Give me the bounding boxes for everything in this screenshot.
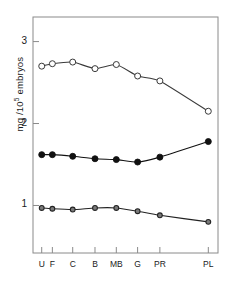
data-point-marker — [92, 156, 98, 162]
x-axis-tick-label-b: B — [92, 259, 98, 269]
data-point-marker — [157, 154, 163, 160]
series-line — [42, 208, 209, 222]
data-point-marker — [135, 209, 140, 214]
x-axis-tick-label-c: C — [70, 259, 76, 269]
y-axis-tick-label: 2 — [13, 117, 27, 128]
data-point-marker — [205, 139, 211, 145]
series-line — [42, 62, 209, 111]
series-small-circle-series — [39, 206, 210, 225]
data-point-marker — [39, 63, 45, 69]
y-axis-tick-label: 1 — [13, 198, 27, 209]
data-point-marker — [39, 152, 45, 158]
data-point-marker — [39, 206, 44, 211]
chart-plot-area — [0, 0, 233, 284]
data-point-marker — [114, 206, 119, 211]
plot-frame — [33, 17, 218, 253]
data-point-marker — [49, 152, 55, 158]
data-point-marker — [70, 207, 75, 212]
data-point-marker — [113, 157, 119, 163]
data-point-marker — [206, 219, 211, 224]
data-point-marker — [70, 59, 76, 65]
series-line — [42, 142, 209, 162]
figure-container: mg /105 embryos 123 UFCBMBGPRPL — [0, 0, 233, 284]
x-axis-tick-label-f: F — [50, 259, 55, 269]
y-axis-label-exponent: 5 — [13, 97, 20, 101]
data-point-marker — [157, 78, 163, 84]
data-point-marker — [135, 159, 141, 165]
series-open-circle-series — [39, 59, 212, 114]
x-axis-tick-label-mb: MB — [110, 259, 123, 269]
data-point-marker — [157, 213, 162, 218]
data-point-marker — [70, 153, 76, 159]
x-axis-tick-label-u: U — [39, 259, 45, 269]
x-axis-tick-label-g: G — [134, 259, 141, 269]
data-point-marker — [92, 66, 98, 72]
data-point-marker — [135, 73, 141, 79]
x-axis-tick-label-pl: PL — [203, 259, 213, 269]
x-axis-tick-label-pr: PR — [154, 259, 166, 269]
y-axis-tick-label: 3 — [13, 35, 27, 46]
data-point-marker — [93, 206, 98, 211]
y-axis-label: mg /105 embryos — [13, 29, 25, 159]
data-point-marker — [49, 61, 55, 67]
data-point-marker — [113, 62, 119, 68]
y-axis-label-tail: embryos — [14, 57, 25, 98]
data-point-marker — [205, 108, 211, 114]
data-point-marker — [50, 206, 55, 211]
series-filled-circle-series — [39, 139, 212, 165]
